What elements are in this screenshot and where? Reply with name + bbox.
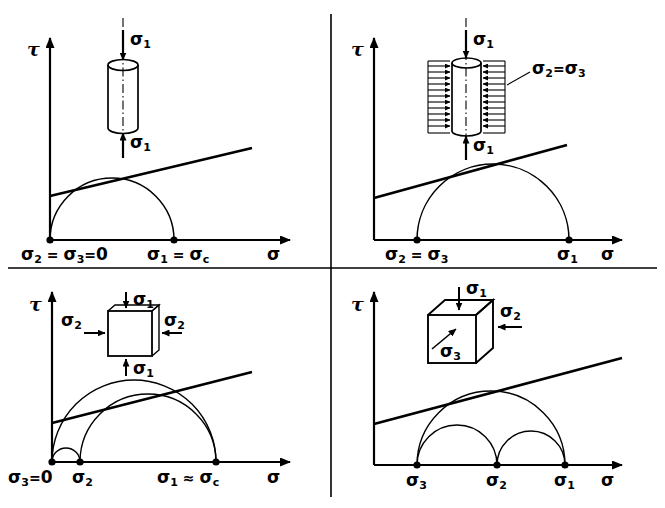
tick-dot-sigma3	[413, 461, 420, 468]
specimen-label-sigma1-top-p1: σ1	[130, 31, 151, 50]
mohr-circle-main	[417, 164, 569, 240]
mohr-circle-32	[417, 425, 497, 465]
axis-label-sigma-p2: σ	[601, 246, 614, 263]
specimen-label-sigma1-top-p3: σ1	[133, 291, 154, 310]
tick-label-sigma3-p4: σ3	[406, 472, 427, 491]
tick-dot-sigma1	[212, 458, 219, 465]
axes	[374, 292, 622, 465]
tick-label-sigma3-p3: σ3=0	[8, 469, 52, 488]
axis-label-tau-p2: τ	[351, 40, 364, 59]
specimen-label-sigma1-top-p2: σ1	[473, 31, 494, 50]
mohr-circle-32	[52, 448, 80, 462]
tick-dot-sigma2	[493, 461, 500, 468]
specimen-label-sigma3-p4: σ3	[440, 343, 461, 362]
specimen-label-sigma2-left-p3: σ2	[61, 312, 82, 331]
tick-label-origin-p1: σ2 = σ3=0	[21, 246, 108, 265]
tick-dot-sigma1	[565, 236, 572, 243]
leader-line	[507, 72, 530, 85]
tick-dot-origin	[46, 236, 53, 243]
axis-label-tau-p3: τ	[29, 295, 42, 314]
specimen-label-sigma2-right-p3: σ2	[164, 312, 185, 331]
tick-dot-sigma3	[48, 458, 55, 465]
axis-label-tau-p4: τ	[351, 295, 364, 314]
panel-uniaxial-compression	[46, 18, 290, 244]
specimen-label-sigma1-bottom-p2: σ1	[473, 137, 494, 156]
specimen-label-confining-pressure-p2: σ2=σ3	[532, 60, 586, 79]
axis-label-tau-p1: τ	[27, 40, 40, 59]
tick-dot-sigma1	[170, 236, 177, 243]
confining-pressure-left	[428, 61, 450, 133]
tick-label-sigma2-p3: σ2	[72, 469, 93, 488]
specimen-label-sigma1-p4: σ1	[466, 280, 487, 299]
specimen-label-sigma2-p4: σ2	[500, 303, 521, 322]
specimen-label-sigma1-bottom-p3: σ1	[133, 360, 154, 379]
mohr-circle-21	[80, 394, 216, 462]
tick-dot-sigma1	[561, 461, 568, 468]
mohr-circle-31	[417, 391, 565, 465]
tick-label-sigma2-p4: σ2	[486, 472, 507, 491]
failure-envelope	[50, 148, 252, 196]
mohr-circle-31	[52, 380, 216, 462]
tick-label-sigma1-p3: σ1 ≈ σc	[157, 469, 219, 488]
tick-dot-sigma23	[413, 236, 420, 243]
figure-canvas: τ σ σ1 σ1 σ2 = σ3=0 σ1 = σc τ σ σ1 σ1 σ2…	[0, 0, 665, 508]
failure-envelope	[374, 145, 567, 198]
failure-envelope	[374, 358, 622, 424]
mohr-circle-main	[50, 178, 174, 240]
mohr-circle-21	[497, 431, 565, 465]
tick-dot-sigma2	[76, 458, 83, 465]
axes	[50, 38, 290, 240]
axis-label-sigma-p3: σ	[267, 469, 280, 486]
confining-pressure-right	[483, 61, 505, 133]
axis-label-sigma-p4: σ	[601, 472, 614, 489]
tick-label-sigma23-p2: σ2 = σ3	[385, 246, 448, 265]
axis-label-sigma-p1: σ	[267, 246, 280, 263]
specimen-label-sigma1-bottom-p1: σ1	[130, 134, 151, 153]
tick-label-sigma1-p2: σ1	[557, 246, 578, 265]
panel-general-triaxial	[374, 287, 622, 469]
tick-label-sigma1-p4: σ1	[554, 472, 575, 491]
tick-label-sigma1-p1: σ1 = σc	[147, 246, 209, 265]
panel-triaxial-confined	[374, 18, 622, 244]
